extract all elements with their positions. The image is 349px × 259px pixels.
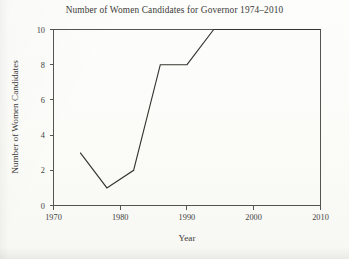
y-tick-label-10: 10 — [37, 26, 45, 35]
figure-root: Number of Women Candidates for Governor … — [0, 0, 349, 259]
y-axis-title: Number of Women Candidates — [10, 60, 20, 174]
plot-frame — [54, 30, 321, 206]
x-tick-label-1990: 1990 — [179, 213, 196, 222]
x-tick-label-2000: 2000 — [245, 213, 262, 222]
y-tick-label-8: 8 — [41, 61, 45, 70]
data-series-line — [80, 30, 320, 188]
plot-area: 0 2 4 6 8 10 1970 1980 1990 2000 2010 Ye… — [0, 0, 349, 259]
x-tick-label-1980: 1980 — [112, 213, 129, 222]
x-tick-label-2010: 2010 — [312, 213, 329, 222]
x-tick-labels: 1970 1980 1990 2000 2010 — [45, 213, 329, 222]
y-tick-label-4: 4 — [41, 131, 46, 140]
x-axis-title: Year — [179, 233, 196, 243]
y-tick-label-0: 0 — [41, 202, 45, 211]
x-tick-marks — [54, 206, 321, 210]
x-tick-label-1970: 1970 — [45, 213, 62, 222]
y-tick-marks — [50, 30, 54, 206]
y-tick-label-2: 2 — [41, 166, 45, 175]
y-tick-label-6: 6 — [41, 96, 45, 105]
y-tick-labels: 0 2 4 6 8 10 — [37, 26, 46, 211]
